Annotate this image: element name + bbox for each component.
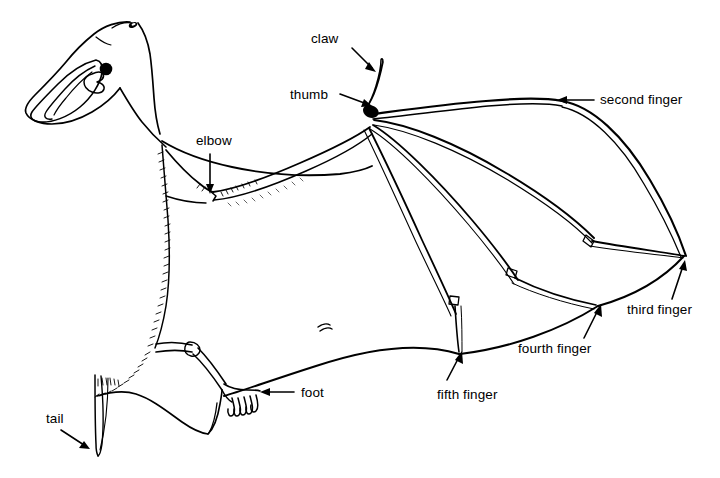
forearm-membrane-seam — [228, 178, 303, 206]
tail-center-line — [100, 378, 108, 450]
label-foot: foot — [301, 385, 324, 400]
label-thumb: thumb — [290, 87, 328, 102]
ankle — [224, 384, 260, 391]
third-finger-bone-inner — [374, 125, 592, 243]
bat-body-group — [25, 21, 686, 456]
label-elbow: elbow — [196, 133, 232, 148]
label-second-finger: second finger — [600, 92, 683, 107]
forearm-top-edge — [213, 127, 370, 192]
second-finger-distal — [562, 101, 686, 256]
membrane-edge-tip-to-fourth — [598, 256, 684, 306]
label-tail: tail — [46, 411, 64, 426]
fourth-finger-bone-inner — [370, 129, 514, 284]
fifth-finger-bone-inner — [364, 130, 451, 316]
leader-tail — [61, 430, 84, 445]
hip-fur-hatching — [95, 352, 150, 397]
tail-membrane-right-edge — [208, 390, 222, 434]
label-fourth-finger: fourth finger — [518, 341, 592, 356]
third-finger-bone — [374, 120, 594, 238]
fourth-finger-distal-inner — [512, 283, 594, 309]
label-fifth-finger: fifth finger — [437, 387, 498, 402]
arrowhead-foot — [260, 388, 270, 396]
brow-detail — [96, 37, 111, 45]
back-fur-hatching — [148, 152, 170, 346]
fourth-finger-joint — [506, 268, 517, 278]
labels-group: claw thumb second finger elbow third fin… — [46, 31, 692, 426]
ear-inner-fold-2 — [54, 72, 92, 115]
label-claw: claw — [311, 31, 339, 46]
second-finger-distal-inner — [562, 107, 681, 257]
tail-membrane-lower-edge — [97, 392, 208, 434]
foot-toes — [228, 395, 258, 416]
back-outline — [155, 145, 169, 348]
tail-outline-right — [98, 376, 103, 456]
bat-illustration: claw thumb second finger elbow third fin… — [0, 0, 720, 478]
arrowhead-third-finger — [679, 260, 687, 271]
armpit-fold — [166, 196, 206, 203]
tibia-upper — [198, 348, 226, 384]
fifth-finger-distal — [455, 306, 459, 352]
tail-outline-left — [95, 375, 98, 456]
arrowhead-second-finger — [557, 96, 567, 104]
bat-anatomy-diagram: claw thumb second finger elbow third fin… — [0, 0, 720, 478]
wrist-knuckle — [363, 105, 379, 118]
second-finger-bone-upper — [374, 99, 562, 114]
label-third-finger: third finger — [627, 302, 692, 317]
fourth-finger-distal — [515, 278, 596, 305]
membrane-edge-fifth-to-ankle — [224, 348, 459, 396]
head-back-outline — [138, 23, 160, 134]
membrane-squiggle-mark — [318, 324, 332, 331]
neck-front — [120, 88, 166, 147]
leader-third-finger — [672, 266, 683, 299]
femur-lower — [156, 351, 192, 353]
fifth-finger-distal-inner — [461, 306, 462, 352]
upper-arm-lower-edge — [166, 150, 213, 192]
upper-arm-leading-edge — [162, 141, 372, 175]
